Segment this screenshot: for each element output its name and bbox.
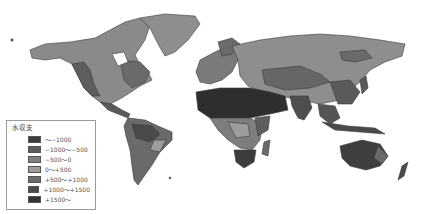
legend-item: −500〜0: [12, 154, 90, 164]
legend-item: −1000〜−500: [12, 144, 90, 154]
legend-item: +1000〜+1500: [12, 184, 90, 194]
legend-swatch: [28, 136, 41, 143]
legend-label: +1000〜+1500: [43, 185, 90, 194]
region-greenland: [140, 14, 200, 56]
legend-swatch: [28, 146, 41, 153]
legend-swatch: [28, 156, 41, 163]
legend-swatch: [28, 186, 39, 193]
legend-title: 水収支: [12, 124, 90, 133]
legend-label: 〜−1000: [45, 135, 71, 144]
region-madagascar: [262, 140, 270, 156]
region-new-zealand: [398, 162, 408, 180]
legend-item: 〜−1000: [12, 134, 90, 144]
legend-swatch: [28, 166, 41, 173]
legend-label: 0〜+500: [45, 165, 71, 174]
region-island: [169, 177, 171, 179]
legend-label: −1000〜−500: [45, 145, 88, 154]
legend-swatch: [28, 196, 41, 203]
map-legend: 水収支 〜−1000 −1000〜−500 −500〜0 0〜+500 +500…: [6, 120, 96, 210]
region-indonesia: [322, 122, 385, 134]
legend-label: −500〜0: [45, 155, 71, 164]
region-southern-africa: [234, 150, 256, 168]
region-india: [290, 96, 312, 120]
legend-item: 0〜+500: [12, 164, 90, 174]
legend-swatch: [28, 176, 41, 183]
legend-label: +500〜+1000: [45, 175, 88, 184]
legend-item: +1500〜: [12, 194, 90, 204]
legend-label: +1500〜: [45, 195, 71, 204]
region-island: [11, 39, 13, 41]
region-central-america: [100, 102, 130, 118]
legend-item: +500〜+1000: [12, 174, 90, 184]
region-southeast-asia: [318, 104, 340, 124]
region-east-africa: [255, 116, 270, 136]
